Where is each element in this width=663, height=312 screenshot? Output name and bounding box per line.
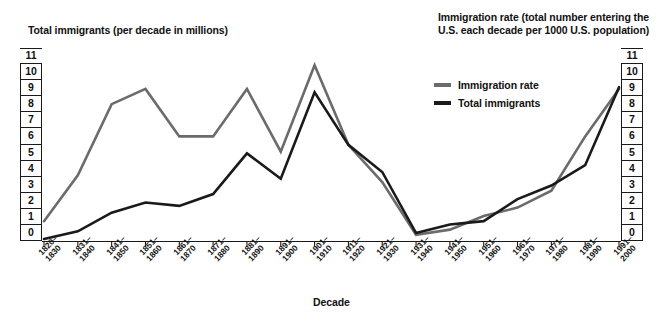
axis-tick-left-9: 9 — [20, 80, 42, 96]
axis-tick-left-11: 11 — [20, 48, 42, 64]
axis-tick-right-9: 9 — [621, 80, 643, 96]
axis-tick-right-11: 11 — [621, 48, 643, 64]
axis-tick-left-0: 0 — [20, 225, 42, 241]
axis-tick-right-7: 7 — [621, 112, 643, 128]
axis-tick-left-10: 10 — [20, 64, 42, 80]
left-axis-title: Total immigrants (per decade in millions… — [28, 24, 228, 37]
legend-item: Immigration rate — [434, 76, 540, 94]
axis-tick-left-4: 4 — [20, 161, 42, 177]
legend-label: Total immigrants — [458, 97, 540, 109]
axis-tick-right-4: 4 — [621, 161, 643, 177]
y-axis-left: 11109876543210 — [20, 48, 42, 241]
axis-tick-right-3: 3 — [621, 177, 643, 193]
axis-tick-right-1: 1 — [621, 209, 643, 225]
chart-legend: Immigration rateTotal immigrants — [434, 76, 540, 112]
legend-swatch-icon — [434, 83, 451, 86]
x-axis-title: Decade — [0, 296, 663, 308]
axis-tick-left-6: 6 — [20, 128, 42, 144]
axis-tick-right-2: 2 — [621, 193, 643, 209]
axis-tick-left-3: 3 — [20, 177, 42, 193]
axis-tick-right-6: 6 — [621, 128, 643, 144]
axis-tick-left-8: 8 — [20, 96, 42, 112]
axis-tick-left-1: 1 — [20, 209, 42, 225]
right-axis-title: Immigration rate (total number entering … — [438, 11, 658, 37]
axis-tick-left-5: 5 — [20, 145, 42, 161]
axis-tick-right-5: 5 — [621, 145, 643, 161]
legend-swatch-icon — [434, 101, 451, 104]
axis-tick-right-8: 8 — [621, 96, 643, 112]
axis-tick-right-10: 10 — [621, 64, 643, 80]
axis-tick-left-7: 7 — [20, 112, 42, 128]
legend-item: Total immigrants — [434, 94, 540, 112]
legend-label: Immigration rate — [458, 79, 539, 91]
axis-tick-left-2: 2 — [20, 193, 42, 209]
axis-tick-right-0: 0 — [621, 225, 643, 241]
y-axis-right: 11109876543210 — [621, 48, 643, 241]
